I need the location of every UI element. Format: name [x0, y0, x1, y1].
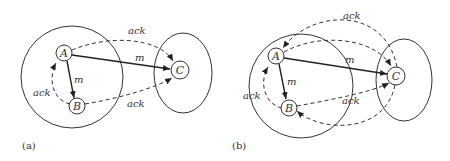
panel-label-b: (b): [232, 140, 246, 151]
edge-a-to-c-ack: [72, 40, 173, 61]
edge-a-to-c: [284, 58, 387, 74]
edge-a-to-b: [279, 64, 286, 99]
panel-a: A B C m m ack ack ack (a): [21, 25, 212, 151]
node-a-label: A: [59, 47, 68, 60]
label-a-to-c: m: [135, 52, 144, 63]
panel-label-a: (a): [22, 140, 36, 151]
label-b-to-a-ack: ack: [33, 87, 51, 98]
label-a-to-c-ack: ack: [128, 25, 146, 36]
edge-a-to-b: [67, 61, 74, 98]
edge-b-to-a-ack: [52, 63, 70, 104]
edge-b-to-a-ack: [264, 67, 282, 108]
label-b-to-c-ack: ack: [342, 95, 360, 106]
label-a-to-c: m: [345, 54, 354, 65]
label-a-to-b: m: [74, 74, 83, 85]
edge-a-to-c-ack-inner: [284, 40, 391, 66]
label-b-to-a-ack: ack: [243, 90, 261, 101]
node-a-label: A: [271, 50, 280, 63]
node-c-label: C: [392, 70, 401, 83]
diagram-canvas: A B C m m ack ack ack (a) A B C: [0, 0, 450, 161]
node-b-label: B: [72, 100, 81, 113]
label-a-to-b: m: [287, 76, 296, 87]
node-c-label: C: [176, 64, 185, 77]
label-b-to-c-ack: ack: [127, 98, 145, 109]
node-b-label: B: [284, 102, 293, 115]
label-c-to-a-ack: ack: [343, 10, 361, 21]
region-left-b: [249, 34, 353, 138]
panel-b: A B C m m ack ack ack (b): [232, 10, 432, 151]
